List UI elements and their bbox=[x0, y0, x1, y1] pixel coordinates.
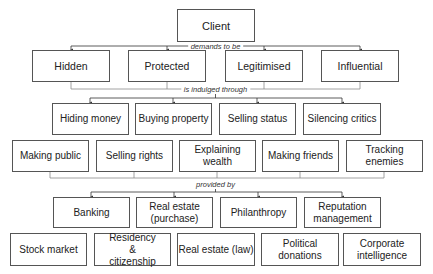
provider-label: Political donations bbox=[274, 238, 326, 262]
activity-label: Buying property bbox=[138, 113, 208, 125]
provider-reputation-management: Reputation management bbox=[304, 197, 381, 228]
activity-hiding-money: Hiding money bbox=[52, 103, 129, 135]
provider-label: Philanthropy bbox=[231, 207, 287, 219]
activity-label: Silencing critics bbox=[308, 113, 377, 125]
activity-explaining-wealth: Explaining wealth bbox=[179, 140, 256, 172]
activity-silencing-critics: Silencing critics bbox=[303, 103, 381, 135]
demand-label: Hidden bbox=[54, 60, 87, 72]
provided-label: provided by bbox=[193, 180, 238, 189]
provider-real-estate-law: Real estate (law) bbox=[177, 233, 255, 266]
indulged-connector bbox=[90, 93, 342, 103]
activity-label: Making friends bbox=[268, 150, 333, 162]
provider-stock-market: Stock market bbox=[10, 233, 87, 266]
activity-label: Explaining wealth bbox=[180, 144, 255, 168]
activity-selling-status: Selling status bbox=[219, 103, 296, 135]
activity-buying-property: Buying property bbox=[135, 103, 212, 135]
provider-philanthropy: Philanthropy bbox=[220, 197, 297, 228]
provider-banking: Banking bbox=[53, 197, 130, 228]
client-label: Client bbox=[202, 20, 230, 32]
demand-legitimised: Legitimised bbox=[225, 50, 303, 82]
client-box: Client bbox=[177, 9, 255, 42]
activity-label: Hiding money bbox=[60, 113, 121, 125]
provider-political-donations: Political donations bbox=[261, 233, 339, 266]
activity-tracking-enemies: Tracking enemies bbox=[346, 140, 423, 172]
provider-label: Residency & citizenship bbox=[105, 232, 160, 268]
activity-label: Selling rights bbox=[106, 150, 163, 162]
provider-label: Reputation management bbox=[311, 201, 374, 225]
provider-label: Corporate intelligence bbox=[352, 238, 412, 262]
activity-label: Making public bbox=[20, 150, 81, 162]
demand-protected: Protected bbox=[128, 50, 206, 82]
activity-label: Selling status bbox=[228, 113, 287, 125]
demand-label: Legitimised bbox=[237, 60, 290, 72]
flow-diagram: Client demands to be is indulged through… bbox=[0, 0, 433, 274]
demand-hidden: Hidden bbox=[32, 50, 110, 82]
provider-label: Real estate (law) bbox=[178, 244, 253, 256]
provider-real-estate-purchase: Real estate (purchase) bbox=[136, 197, 213, 228]
provided-connector bbox=[91, 188, 342, 197]
activity-label: Tracking enemies bbox=[347, 144, 422, 168]
provider-label: Real estate (purchase) bbox=[145, 201, 204, 225]
demand-label: Influential bbox=[338, 60, 383, 72]
provider-corporate-intelligence: Corporate intelligence bbox=[343, 233, 421, 266]
provider-residency-citizenship: Residency & citizenship bbox=[94, 233, 171, 266]
provided-bracket bbox=[50, 172, 384, 178]
provider-label: Stock market bbox=[19, 244, 77, 256]
activity-selling-rights: Selling rights bbox=[96, 140, 173, 172]
provider-label: Banking bbox=[73, 207, 109, 219]
indulged-label: is indulged through bbox=[181, 85, 250, 94]
activity-making-public: Making public bbox=[12, 140, 89, 172]
demand-label: Protected bbox=[145, 60, 190, 72]
activity-making-friends: Making friends bbox=[262, 140, 339, 172]
demand-influential: Influential bbox=[321, 50, 399, 82]
